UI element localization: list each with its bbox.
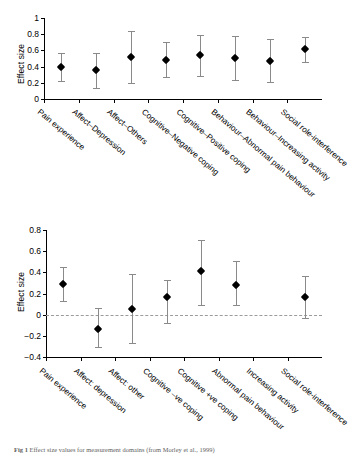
data-point-marker: [94, 325, 102, 333]
error-bar-cap: [302, 37, 309, 38]
error-bar-cap: [95, 347, 102, 348]
y-tick-mark: [43, 251, 46, 252]
data-point-marker: [92, 66, 100, 74]
y-tick-mark: [41, 34, 44, 35]
error-bar-cap: [128, 83, 135, 84]
error-bar-cap: [60, 301, 67, 302]
error-bar-cap: [197, 35, 204, 36]
data-point-marker: [128, 305, 136, 313]
error-bar-cap: [233, 305, 240, 306]
y-tick-mark: [41, 67, 44, 68]
data-point-marker: [196, 51, 204, 59]
data-point-marker: [59, 280, 67, 288]
data-point-marker: [232, 281, 240, 289]
y-axis-line: [46, 230, 47, 357]
chart-top: Effect size 00.20.40.60.81 Pain experien…: [0, 0, 331, 205]
error-bar-cap: [128, 31, 135, 32]
data-point-marker: [300, 45, 308, 53]
y-axis-line: [44, 18, 45, 99]
y-tick-label: 1: [8, 13, 39, 23]
error-bar-cap: [267, 39, 274, 40]
figure-caption: Fig 1 Effect size values for measurement…: [14, 446, 324, 453]
error-bar-cap: [95, 308, 102, 309]
error-bar: [167, 280, 168, 323]
y-tick-mark: [41, 83, 44, 84]
data-point-marker: [197, 267, 205, 275]
error-bar-cap: [164, 323, 171, 324]
data-point-marker: [231, 53, 239, 61]
y-tick-label: 0.8: [8, 29, 39, 39]
data-point-marker: [301, 292, 309, 300]
y-tick-mark: [43, 294, 46, 295]
error-bar-cap: [198, 240, 205, 241]
error-bar-cap: [233, 261, 240, 262]
error-bar-cap: [58, 81, 65, 82]
plot-area-bottom: −0.4−0.200.20.40.60.8: [0, 205, 331, 445]
error-bar-cap: [302, 318, 309, 319]
y-tick-mark: [43, 230, 46, 231]
error-bar-cap: [198, 305, 205, 306]
y-tick-mark: [41, 50, 44, 51]
error-bar-cap: [129, 343, 136, 344]
y-tick-mark: [43, 336, 46, 337]
y-tick-label: 0: [8, 94, 39, 104]
data-point-marker: [57, 62, 65, 70]
error-bar-cap: [164, 280, 171, 281]
y-tick-label: 0.2: [10, 289, 41, 299]
error-bar-cap: [232, 36, 239, 37]
figure-caption-text: Effect size values for measurement domai…: [30, 446, 215, 453]
data-point-marker: [161, 56, 169, 64]
error-bar-cap: [93, 88, 100, 89]
error-bar-cap: [267, 82, 274, 83]
zero-reference-line: [46, 315, 322, 316]
error-bar-cap: [163, 77, 170, 78]
y-tick-label: −0.2: [10, 331, 41, 341]
chart-bottom: Effect size −0.4−0.200.20.40.60.8 Pain e…: [0, 205, 331, 445]
y-tick-label: 0.8: [10, 225, 41, 235]
error-bar-cap: [60, 267, 67, 268]
y-tick-mark: [43, 272, 46, 273]
figure-caption-prefix: Fig 1: [14, 446, 28, 453]
y-tick-label: 0.6: [8, 45, 39, 55]
error-bar-cap: [302, 62, 309, 63]
y-tick-label: 0.2: [8, 78, 39, 88]
y-tick-label: 0.4: [10, 267, 41, 277]
error-bar-cap: [129, 274, 136, 275]
y-tick-label: −0.4: [10, 352, 41, 362]
error-bar-cap: [232, 80, 239, 81]
y-tick-label: 0: [10, 310, 41, 320]
y-tick-label: 0.6: [10, 246, 41, 256]
error-bar-cap: [58, 53, 65, 54]
data-point-marker: [266, 57, 274, 65]
error-bar-cap: [93, 53, 100, 54]
data-point-marker: [127, 53, 135, 61]
error-bar-cap: [197, 76, 204, 77]
data-point-marker: [163, 292, 171, 300]
error-bar-cap: [163, 42, 170, 43]
y-tick-label: 0.4: [8, 62, 39, 72]
y-tick-mark: [41, 18, 44, 19]
error-bar-cap: [302, 276, 309, 277]
